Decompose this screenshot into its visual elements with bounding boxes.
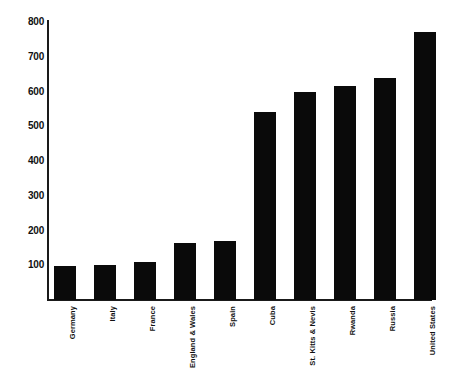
x-axis-category-label: Italy: [109, 306, 117, 322]
x-axis-category-label: England & Wales: [189, 306, 197, 368]
x-axis-category-label: Rwanda: [349, 306, 357, 335]
x-axis-category-labels: GermanyItalyFranceEngland & WalesSpainCu…: [0, 0, 459, 392]
x-axis-category-label: Russia: [389, 306, 397, 331]
x-axis-category-label: United States: [429, 306, 437, 355]
bar-chart: 100200300400500600700800 GermanyItalyFra…: [0, 0, 459, 392]
x-axis-category-label: St. Kitts & Nevis: [309, 306, 317, 366]
x-axis-category-label: Germany: [69, 306, 77, 339]
x-axis-category-label: France: [149, 306, 157, 331]
x-axis-category-label: Spain: [229, 306, 237, 327]
x-axis-category-label: Cuba: [269, 306, 277, 325]
